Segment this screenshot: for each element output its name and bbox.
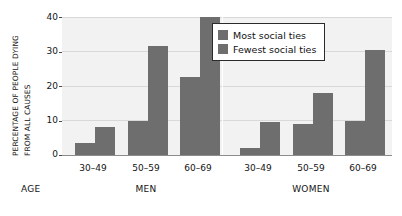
bar-women-30-49-most bbox=[240, 148, 260, 155]
gridline-20 bbox=[62, 86, 392, 87]
x-axis-name-age: AGE bbox=[21, 184, 41, 194]
bar-men-30-49-most bbox=[75, 143, 95, 155]
x-label-women-30-49: 30–49 bbox=[232, 163, 284, 173]
legend-item-most-social-ties: Most social ties bbox=[218, 28, 316, 42]
group-label-men: MEN bbox=[120, 184, 172, 194]
x-label-women-50-59: 50–59 bbox=[285, 163, 337, 173]
gridline-40 bbox=[62, 17, 392, 18]
bar-women-60-69-most bbox=[345, 121, 365, 156]
y-tick-20: 20 bbox=[38, 82, 58, 91]
x-axis-line bbox=[62, 155, 392, 156]
legend-swatch-most-social-ties bbox=[218, 30, 228, 40]
x-label-men-60-69: 60–69 bbox=[172, 163, 224, 173]
x-label-women-60-69: 60–69 bbox=[337, 163, 389, 173]
bar-men-60-69-most bbox=[180, 77, 200, 155]
bar-women-30-49-fewest bbox=[260, 122, 280, 155]
y-tick-30: 30 bbox=[38, 47, 58, 56]
bar-men-50-59-fewest bbox=[148, 46, 168, 155]
bar-women-50-59-most bbox=[293, 124, 313, 155]
bar-men-50-59-most bbox=[128, 121, 148, 156]
y-axis-title-line-1: PERCENTAGE OF PEOPLE DYING bbox=[11, 35, 20, 156]
bar-chart-figure: PERCENTAGE OF PEOPLE DYING FROM ALL CAUS… bbox=[0, 0, 402, 216]
bar-women-60-69-fewest bbox=[365, 50, 385, 155]
y-tick-40: 40 bbox=[38, 13, 58, 22]
bar-men-30-49-fewest bbox=[95, 127, 115, 155]
legend-label-most-social-ties: Most social ties bbox=[233, 30, 306, 41]
y-axis-tick-labels: 40 30 20 10 0 bbox=[36, 0, 58, 170]
x-label-men-30-49: 30–49 bbox=[67, 163, 119, 173]
x-label-men-50-59: 50–59 bbox=[120, 163, 172, 173]
group-label-women: WOMEN bbox=[285, 184, 337, 194]
legend-swatch-fewest-social-ties bbox=[218, 44, 228, 54]
y-tick-0: 0 bbox=[38, 150, 58, 159]
legend: Most social ties Fewest social ties bbox=[212, 23, 325, 61]
y-axis-title-line-2: FROM ALL CAUSES bbox=[23, 85, 32, 157]
legend-item-fewest-social-ties: Fewest social ties bbox=[218, 42, 316, 56]
legend-label-fewest-social-ties: Fewest social ties bbox=[233, 44, 316, 55]
y-tick-10: 10 bbox=[38, 116, 58, 125]
bar-women-50-59-fewest bbox=[313, 93, 333, 155]
gridline-10 bbox=[62, 120, 392, 121]
